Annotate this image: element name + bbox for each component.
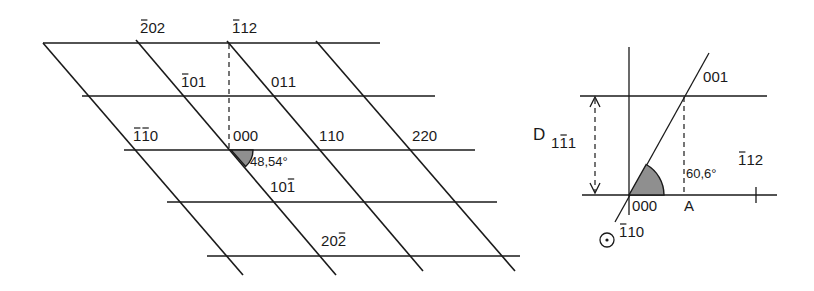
spacing-label: D <box>533 125 545 144</box>
index-digit: 1 <box>619 223 627 240</box>
right-diagram: 60,6° A D 001112000110111 <box>533 47 777 247</box>
index-digit: 0 <box>189 73 197 90</box>
angle-wedge-60-6 <box>629 165 664 196</box>
index-digit: 0 <box>241 127 249 144</box>
index-digit: 1 <box>627 223 635 240</box>
index-digit: 1 <box>141 127 149 144</box>
index-digit: 2 <box>755 151 763 168</box>
index-digit: 0 <box>271 73 279 90</box>
index-digit: 1 <box>279 73 287 90</box>
index-digit: 1 <box>568 134 576 151</box>
lattice-diagonal-1 <box>43 43 243 275</box>
index-digit: 2 <box>338 232 346 249</box>
index-digit: 2 <box>420 127 428 144</box>
index-digit: 0 <box>250 127 258 144</box>
index-digit: 0 <box>148 19 156 36</box>
angle-label-left: 48,54° <box>250 154 288 169</box>
node-label-0-1-1: 011 <box>271 73 296 90</box>
index-digit: 1 <box>319 127 327 144</box>
node-label-bar1-bar1-0: 110 <box>133 127 158 144</box>
index-digit: 1 <box>232 19 240 36</box>
zone-axis-label: 110 <box>619 223 644 240</box>
index-digit: 1 <box>198 73 206 90</box>
angle-label-right: 60,6° <box>686 166 717 181</box>
index-digit: 2 <box>321 232 329 249</box>
index-digit: 1 <box>288 73 296 90</box>
index-digit: 2 <box>157 19 165 36</box>
lattice-diagonal-2 <box>136 40 336 275</box>
node-label-bar1-0-1: 101 <box>181 73 206 90</box>
index-digit: 0 <box>278 178 286 195</box>
index-digit: 0 <box>703 68 711 85</box>
zone-axis-dot-icon <box>605 238 608 241</box>
index-digit: 0 <box>329 232 337 249</box>
index-digit: 1 <box>746 151 754 168</box>
index-digit: 1 <box>559 134 567 151</box>
node-label-bar2-0-2: 202 <box>140 19 165 36</box>
index-digit: 1 <box>551 134 559 151</box>
right-labels: 001112000110111 <box>551 68 763 240</box>
point-a-label: A <box>684 197 694 214</box>
index-digit: 2 <box>140 19 148 36</box>
index-digit: 0 <box>711 68 719 85</box>
index-digit: 1 <box>133 127 141 144</box>
index-digit: 0 <box>150 127 158 144</box>
direction-bar1-12-label: 112 <box>738 151 763 168</box>
node-label-bar1-1-2: 112 <box>232 19 257 36</box>
left-lattice: 48,54° 202112101011110000110220101202 <box>43 19 520 275</box>
origin-000-label: 000 <box>632 197 657 214</box>
node-label-1-1-0: 110 <box>319 127 344 144</box>
index-digit: 0 <box>429 127 437 144</box>
direction-001-label: 001 <box>703 68 728 85</box>
index-digit: 2 <box>249 19 257 36</box>
node-label-2-0-bar2: 202 <box>321 232 346 249</box>
index-digit: 1 <box>181 73 189 90</box>
index-digit: 0 <box>649 197 657 214</box>
index-digit: 1 <box>240 19 248 36</box>
index-digit: 0 <box>233 127 241 144</box>
index-digit: 2 <box>412 127 420 144</box>
index-digit: 1 <box>327 127 335 144</box>
index-digit: 0 <box>636 223 644 240</box>
index-digit: 1 <box>287 178 295 195</box>
index-digit: 1 <box>270 178 278 195</box>
diagram-canvas: 48,54° 202112101011110000110220101202 60… <box>0 0 814 291</box>
node-label-2-2-0: 220 <box>412 127 437 144</box>
spacing-subscript-label: 111 <box>551 134 576 151</box>
node-label-0-0-0: 000 <box>233 127 258 144</box>
node-label-1-0-bar1: 101 <box>270 178 295 195</box>
index-digit: 1 <box>738 151 746 168</box>
index-digit: 0 <box>632 197 640 214</box>
index-digit: 0 <box>336 127 344 144</box>
index-digit: 1 <box>720 68 728 85</box>
index-digit: 0 <box>640 197 648 214</box>
